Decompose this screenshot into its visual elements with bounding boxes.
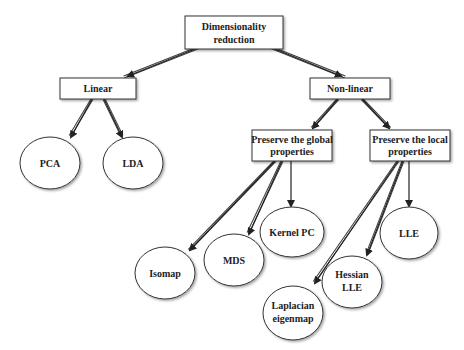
hessian-label-1: Hessian: [335, 269, 369, 280]
laplacian-label-1: Laplacian: [272, 300, 315, 311]
local-label-1: Preserve the local: [372, 134, 448, 145]
taxonomy-diagram: Dimensionality reduction Linear Non-line…: [0, 0, 464, 350]
global-label-2: properties: [270, 146, 314, 157]
lle-label: LLE: [399, 228, 419, 239]
node-lle: LLE: [380, 207, 438, 259]
root-label-1: Dimensionality: [202, 21, 266, 32]
node-hessian-lle: Hessian LLE: [322, 256, 382, 308]
root-label-2: reduction: [214, 34, 255, 45]
node-lda: LDA: [103, 137, 163, 189]
linear-label: Linear: [84, 83, 113, 94]
node-mds: MDS: [204, 234, 264, 286]
laplacian-label-2: eigenmap: [272, 313, 314, 324]
mds-label: MDS: [223, 255, 246, 266]
node-pca: PCA: [20, 137, 80, 189]
kernel-pc-label: Kernel PC: [269, 227, 314, 238]
local-label-2: properties: [388, 146, 432, 157]
pca-label: PCA: [40, 158, 61, 169]
node-global: Preserve the global properties: [251, 130, 333, 161]
node-isomap: Isomap: [135, 247, 195, 299]
node-root: Dimensionality reduction: [185, 16, 283, 49]
isomap-label: Isomap: [149, 268, 181, 279]
hessian-label-2: LLE: [342, 282, 362, 293]
lda-label: LDA: [122, 158, 144, 169]
node-nonlinear: Non-linear: [310, 78, 390, 99]
node-kernel-pc: Kernel PC: [260, 207, 324, 257]
global-label-1: Preserve the global: [251, 134, 333, 145]
node-linear: Linear: [60, 78, 136, 99]
node-laplacian-eigenmap: Laplacian eigenmap: [263, 286, 323, 340]
nonlinear-label: Non-linear: [327, 83, 374, 94]
node-local: Preserve the local properties: [370, 130, 450, 161]
